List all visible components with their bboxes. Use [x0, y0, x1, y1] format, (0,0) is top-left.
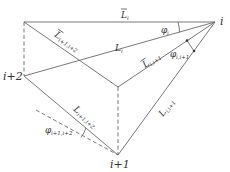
geometry-diagram: i i+2 i+1 L i L i φ i L i+1,i+2 L i,i+1 …	[0, 0, 230, 172]
svg-text:L: L	[120, 10, 127, 20]
label-phi-i-i1: φ i,i+1	[170, 49, 189, 60]
svg-text:i,i+1: i,i+1	[148, 55, 162, 67]
svg-text:i: i	[127, 15, 129, 21]
node-label-i2: i+2	[3, 70, 23, 83]
label-lbar-i: L i	[120, 9, 129, 21]
svg-text:i+1,i+2: i+1,i+2	[76, 112, 97, 131]
label-phi-i: φ i	[161, 25, 169, 36]
label-l-i: L i	[114, 43, 123, 54]
label-lbar-i1-i2: L i+1,i+2	[51, 29, 81, 54]
angle-arc-phi-i	[178, 22, 180, 33]
svg-text:i,i+1: i,i+1	[176, 54, 189, 60]
svg-text:i: i	[167, 30, 169, 36]
svg-text:L: L	[114, 43, 121, 53]
node-label-i: i	[220, 15, 224, 28]
edge-l-i-i1	[118, 22, 215, 155]
label-lbar-i-i1: L i,i+1	[140, 51, 163, 72]
svg-text:i: i	[121, 48, 123, 54]
edge-lbar-i1-i2	[24, 22, 118, 87]
edge-l-i1-i2	[24, 76, 118, 155]
svg-text:i+1,i+2: i+1,i+2	[57, 37, 79, 54]
angle-dot-2	[193, 50, 196, 53]
label-l-i-i1: L i,i+1	[156, 97, 177, 120]
angle-dot-1	[186, 39, 189, 42]
label-l-i1-i2: L i+1,i+2	[70, 103, 99, 130]
svg-text:i+1,i+2: i+1,i+2	[51, 130, 73, 136]
label-phi-i1-i2: φ i+1,i+2	[45, 125, 73, 136]
angle-arc-phi-i-i1	[187, 41, 194, 52]
node-label-i1: i+1	[110, 158, 130, 171]
svg-text:i,i+1: i,i+1	[164, 100, 177, 114]
